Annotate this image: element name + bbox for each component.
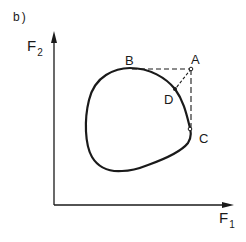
- x-axis-label-main: F: [219, 209, 228, 226]
- y-axis-arrow-icon: [51, 31, 57, 43]
- dashed-line-a-d: [176, 69, 191, 88]
- x-axis-label-subscript: 1: [229, 219, 235, 230]
- y-axis-label-subscript: 2: [37, 47, 43, 58]
- y-axis-label-main: F: [27, 37, 36, 54]
- point-a-marker: [189, 67, 193, 71]
- y-axis-label: F2: [27, 38, 43, 53]
- point-d-label: D: [164, 93, 173, 106]
- point-c-label: C: [199, 132, 208, 145]
- x-axis-arrow-icon: [222, 202, 234, 208]
- point-a-label: A: [191, 53, 200, 66]
- point-c-marker: [188, 127, 192, 131]
- point-b-label: B: [125, 54, 134, 67]
- panel-label: b): [13, 11, 28, 23]
- diagram-canvas: [0, 0, 246, 242]
- point-d-marker: [173, 87, 177, 91]
- x-axis-label: F1: [219, 210, 235, 225]
- feasible-region-boundary: [86, 68, 191, 171]
